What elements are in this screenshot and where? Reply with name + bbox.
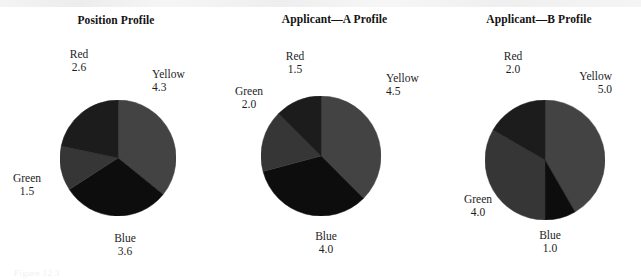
- chart-title: Applicant—A Profile: [232, 13, 437, 25]
- slice-label-value: 1.0: [527, 242, 573, 255]
- slice-label-value: 2.0: [226, 98, 272, 111]
- slice-label-red: Red1.5: [272, 50, 318, 75]
- figure-sheet: Position ProfileYellow4.3Blue3.6Green1.5…: [0, 0, 641, 280]
- ghost-caption: Figure 12.3: [14, 268, 60, 278]
- chart-panel: Position ProfileYellow4.3Blue3.6Green1.5…: [0, 0, 232, 280]
- slice-label-name: Red: [490, 50, 536, 63]
- slice-label-name: Yellow: [386, 72, 419, 85]
- slice-label-red: Red2.6: [56, 48, 102, 73]
- slice-label-green: Green2.0: [226, 85, 272, 110]
- slice-label-blue: Blue3.6: [102, 232, 148, 257]
- pie-chart: [60, 100, 176, 216]
- slice-label-name: Blue: [303, 230, 349, 243]
- slice-label-name: Green: [455, 193, 501, 206]
- slice-label-yellow: Yellow4.5: [386, 72, 419, 97]
- slice-label-name: Blue: [527, 229, 573, 242]
- chart-title: Applicant—B Profile: [437, 13, 641, 25]
- slice-label-value: 4.0: [455, 206, 501, 219]
- pie-chart: [485, 100, 605, 220]
- pie-chart: [261, 96, 381, 216]
- slice-label-blue: Blue1.0: [527, 229, 573, 254]
- slice-label-name: Green: [226, 85, 272, 98]
- slice-label-name: Blue: [102, 232, 148, 245]
- slice-label-value: 5.0: [437, 83, 612, 96]
- slice-label-red: Red2.0: [490, 50, 536, 75]
- slice-label-value: 4.3: [152, 81, 185, 94]
- chart-panel: Applicant—B ProfileYellow5.0Blue1.0Green…: [437, 0, 641, 280]
- chart-title: Position Profile: [0, 14, 232, 26]
- slice-label-name: Red: [56, 48, 102, 61]
- slice-label-green: Green4.0: [455, 193, 501, 218]
- slice-label-value: 1.5: [4, 185, 50, 198]
- slice-label-name: Red: [272, 50, 318, 63]
- slice-label-yellow: Yellow4.3: [152, 68, 185, 93]
- slice-label-name: Green: [4, 172, 50, 185]
- slice-label-green: Green1.5: [4, 172, 50, 197]
- slice-label-value: 2.0: [490, 63, 536, 76]
- slice-label-blue: Blue4.0: [303, 230, 349, 255]
- slice-label-value: 3.6: [102, 245, 148, 258]
- slice-label-value: 4.0: [303, 243, 349, 256]
- slice-label-value: 4.5: [386, 85, 419, 98]
- slice-label-name: Yellow: [152, 68, 185, 81]
- slice-label-value: 2.6: [56, 61, 102, 74]
- slice-label-value: 1.5: [272, 63, 318, 76]
- chart-panel: Applicant—A ProfileYellow4.5Blue4.0Green…: [232, 0, 437, 280]
